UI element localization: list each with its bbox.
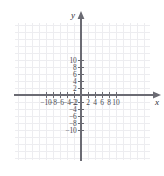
coordinate-plane-figure: −10−8−6−4−2246810 108642−2−4−6−8−10 x y bbox=[0, 0, 164, 176]
coordinate-plane-svg: −10−8−6−4−2246810 108642−2−4−6−8−10 x y bbox=[0, 0, 164, 176]
y-tick-label: −10 bbox=[65, 126, 77, 135]
y-axis-letter: y bbox=[70, 10, 75, 20]
x-tick-label: 10 bbox=[112, 98, 120, 107]
x-tick-label: 8 bbox=[107, 98, 111, 107]
x-tick-label: 6 bbox=[100, 98, 104, 107]
x-tick-label: 4 bbox=[93, 98, 97, 107]
x-tick-label: 2 bbox=[86, 98, 90, 107]
x-axis-letter: x bbox=[154, 97, 159, 107]
y-tick-label: 2 bbox=[73, 84, 77, 93]
